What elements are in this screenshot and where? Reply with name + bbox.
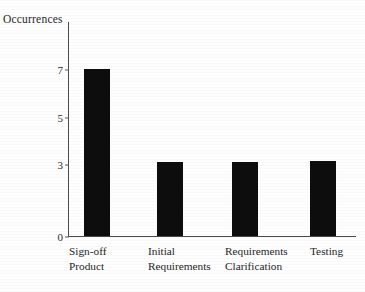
y-tick-label-5: 5 [58, 112, 64, 124]
bar [310, 161, 336, 236]
x-axis-label: Requirements Clarification [225, 244, 288, 273]
x-axis-label: Sign-off Product [69, 244, 106, 273]
y-axis-title: Occurrences [3, 13, 63, 25]
bar [232, 162, 258, 236]
x-axis-label: Initial Requirements [148, 244, 211, 273]
y-tick-label-7: 7 [58, 64, 64, 76]
bar-chart: Occurrences 0357 Sign-off ProductInitial… [0, 0, 365, 292]
y-tick-label-3: 3 [58, 159, 64, 171]
y-tick-mark [65, 165, 69, 166]
y-tick-mark [65, 117, 69, 118]
y-tick-label-0: 0 [58, 231, 64, 243]
plot-area: 0357 [68, 22, 356, 237]
x-axis-label: Testing [310, 244, 343, 259]
y-tick-mark [65, 69, 69, 70]
y-tick-mark [65, 237, 69, 238]
bar [84, 69, 110, 236]
bar [157, 162, 183, 236]
y-axis-line [68, 22, 69, 237]
